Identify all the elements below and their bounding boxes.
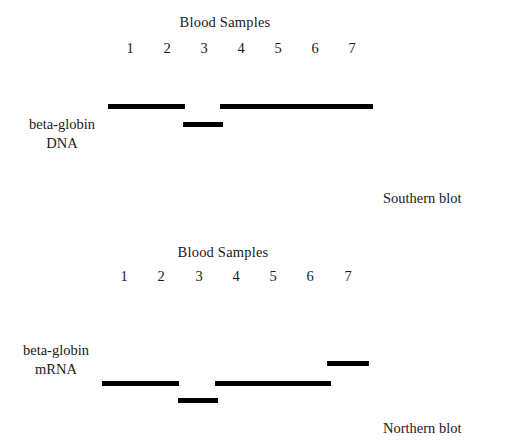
lane-number-6: 6	[305, 38, 325, 58]
lane-number-4: 4	[226, 266, 246, 286]
blot-figure: Blood Samples 1234567 beta-globin DNA So…	[0, 0, 517, 448]
northern-row-label-line1: beta-globin	[8, 341, 104, 360]
northern-row-label: beta-globin mRNA	[8, 341, 104, 379]
band-lane-1	[108, 104, 148, 109]
band-lane-4	[220, 104, 262, 109]
southern-row-label: beta-globin DNA	[14, 115, 110, 153]
lane-number-5: 5	[268, 38, 288, 58]
band-lane-7	[331, 104, 373, 109]
band-lane-2	[145, 104, 185, 109]
northern-blot-caption: Northern blot	[383, 420, 462, 437]
lane-number-7: 7	[338, 266, 358, 286]
lane-number-7: 7	[342, 38, 362, 58]
band-lane-3	[178, 398, 218, 403]
lane-number-1: 1	[114, 266, 134, 286]
lane-number-6: 6	[300, 266, 320, 286]
lane-number-2: 2	[151, 266, 171, 286]
band-lane-5	[252, 381, 294, 386]
band-lane-6	[294, 104, 336, 109]
northern-row-label-line2: mRNA	[8, 360, 104, 379]
lane-number-3: 3	[194, 38, 214, 58]
band-lane-2	[139, 381, 179, 386]
southern-blot-caption: Southern blot	[383, 190, 462, 207]
southern-row-label-line1: beta-globin	[14, 115, 110, 134]
southern-samples-title: Blood Samples	[170, 14, 280, 31]
lane-number-3: 3	[189, 266, 209, 286]
band-lane-6	[289, 381, 331, 386]
southern-blot-panel: Blood Samples 1234567 beta-globin DNA So…	[0, 0, 517, 224]
lane-number-5: 5	[263, 266, 283, 286]
band-lane-5	[257, 104, 299, 109]
band-lane-1	[102, 381, 142, 386]
lane-number-4: 4	[231, 38, 251, 58]
lane-number-1: 1	[120, 38, 140, 58]
southern-row-label-line2: DNA	[14, 134, 110, 153]
lane-number-2: 2	[157, 38, 177, 58]
northern-blot-panel: Blood Samples 1234567 beta-globin mRNA N…	[0, 228, 517, 448]
band-lane-3	[183, 122, 223, 127]
band-lane-7	[327, 361, 369, 366]
northern-samples-title: Blood Samples	[168, 244, 278, 261]
band-lane-4	[215, 381, 257, 386]
